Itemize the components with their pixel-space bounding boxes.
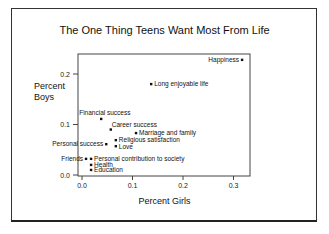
data-point-marker <box>90 164 92 166</box>
data-point-marker <box>241 59 243 61</box>
data-point-marker <box>85 158 87 160</box>
y-tick-label: 0.0 <box>60 172 70 179</box>
data-point-marker <box>105 143 107 145</box>
y-tick-label: 0.1 <box>60 121 70 128</box>
x-tick-label: 0.2 <box>178 182 188 189</box>
data-point-label: Friends <box>61 155 83 162</box>
data-point-marker <box>110 128 112 130</box>
data-point-label: Career success <box>112 121 158 128</box>
data-point-marker <box>115 139 117 141</box>
data-point-label: Love <box>119 143 133 150</box>
data-point-label: Financial success <box>79 109 131 116</box>
x-tick-label: 0.0 <box>77 182 87 189</box>
data-point-marker <box>90 169 92 171</box>
data-point-label: Happiness <box>208 56 239 64</box>
data-point-label: Education <box>94 166 123 173</box>
data-point-marker <box>90 158 92 160</box>
data-point-marker <box>135 132 137 134</box>
x-tick-label: 0.1 <box>128 182 138 189</box>
x-tick-label: 0.3 <box>229 182 239 189</box>
data-point-marker <box>100 118 102 120</box>
data-point-label: Long enjoyable life <box>154 80 209 88</box>
data-point-marker <box>115 145 117 147</box>
data-point-marker <box>150 83 152 85</box>
y-tick-label: 0.2 <box>60 71 70 78</box>
data-point-label: Personal success <box>52 140 104 147</box>
scatter-plot: 0.00.10.20.30.00.10.2HappinessLong enjoy… <box>0 0 329 234</box>
